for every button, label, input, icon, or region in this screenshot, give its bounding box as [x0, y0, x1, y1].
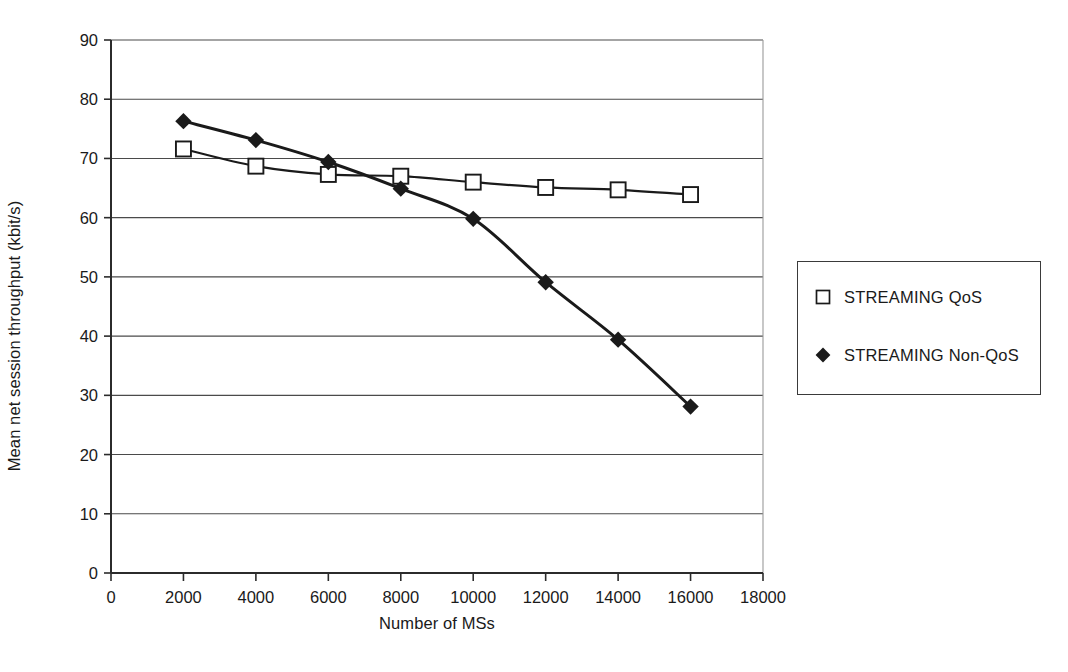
- x-tick-label: 10000: [450, 588, 496, 606]
- y-tick-label: 10: [80, 505, 98, 523]
- y-tick-label: 70: [80, 149, 98, 167]
- x-axis-ticks: 0200040006000800010000120001400016000180…: [106, 573, 786, 606]
- data-point-marker: [175, 113, 191, 129]
- y-tick-label: 60: [80, 209, 98, 227]
- data-point-marker: [538, 180, 553, 195]
- y-tick-label: 0: [89, 564, 98, 582]
- data-point-marker: [248, 159, 263, 174]
- x-tick-label: 18000: [740, 588, 786, 606]
- filled-diamond-icon: [812, 344, 834, 366]
- x-tick-label: 2000: [165, 588, 202, 606]
- x-tick-label: 6000: [310, 588, 347, 606]
- data-point-marker: [611, 182, 626, 197]
- x-tick-label: 16000: [668, 588, 714, 606]
- legend-entry-streaming-non-qos: STREAMING Non-QoS: [812, 344, 1019, 366]
- x-tick-label: 0: [106, 588, 115, 606]
- y-tick-label: 40: [80, 327, 98, 345]
- y-axis-ticks: 0102030405060708090: [80, 31, 111, 582]
- y-tick-label: 30: [80, 386, 98, 404]
- y-tick-label: 50: [80, 268, 98, 286]
- open-square-icon: [812, 286, 834, 308]
- data-point-marker: [248, 132, 264, 148]
- data-point-marker: [466, 175, 481, 190]
- chart-figure: Mean net session throughput (kbit/s) Num…: [0, 0, 1068, 672]
- x-tick-label: 4000: [238, 588, 275, 606]
- x-tick-label: 12000: [523, 588, 569, 606]
- y-tick-label: 80: [80, 90, 98, 108]
- x-tick-label: 14000: [595, 588, 641, 606]
- data-point-marker: [176, 141, 191, 156]
- legend-entry-streaming-qos: STREAMING QoS: [812, 286, 982, 308]
- data-point-marker: [683, 187, 698, 202]
- gridlines: [111, 40, 763, 573]
- y-tick-label: 20: [80, 446, 98, 464]
- legend-label-1: STREAMING Non-QoS: [844, 346, 1019, 365]
- legend: STREAMING QoS STREAMING Non-QoS: [797, 261, 1041, 395]
- y-tick-label: 90: [80, 31, 98, 49]
- x-tick-label: 8000: [382, 588, 419, 606]
- legend-label-0: STREAMING QoS: [844, 288, 982, 307]
